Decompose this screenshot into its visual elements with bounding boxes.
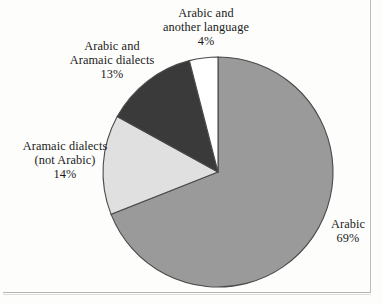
pie-label-line-2: Aramaic dialects xyxy=(48,53,176,67)
pie-label-line-1: Aramaic dialects xyxy=(4,139,126,153)
pie-label-percent: 14% xyxy=(4,167,126,181)
pie-label-line-2: (not Arabic) xyxy=(4,153,126,167)
pie-label-line-1: Arabic and xyxy=(48,39,176,53)
pie-label-line-2: another language xyxy=(136,20,276,34)
pie-label-aramaic-dialects-not-arabic: Aramaic dialects (not Arabic) 14% xyxy=(4,139,126,182)
chart-page: Arabic and another language 4% Arabic an… xyxy=(0,0,383,305)
page-rule-bottom xyxy=(3,292,371,293)
pie-label-line-1: Arabic and xyxy=(136,6,276,20)
pie-label-percent: 13% xyxy=(48,67,176,81)
page-border-right xyxy=(370,0,371,293)
page-rule-bottom-shadow xyxy=(3,294,371,295)
pie-label-arabic-and-aramaic-dialects: Arabic and Aramaic dialects 13% xyxy=(48,39,176,82)
